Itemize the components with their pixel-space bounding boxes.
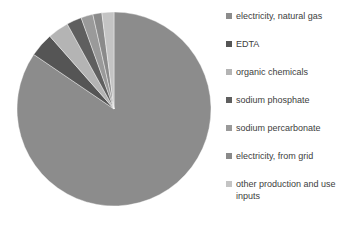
legend-swatch <box>226 97 232 103</box>
legend-swatch <box>226 69 232 75</box>
legend-label: other production and use inputs <box>236 178 336 202</box>
legend-swatch <box>226 13 232 19</box>
legend-item-sodium-percarbonate: sodium percarbonate <box>226 122 336 134</box>
legend-item-sodium-phosphate: sodium phosphate <box>226 94 336 106</box>
legend-label: sodium percarbonate <box>236 122 336 134</box>
pie-chart <box>0 0 230 227</box>
legend-swatch <box>226 125 232 131</box>
legend-item-electricity-natural-gas: electricity, natural gas <box>226 10 336 22</box>
legend-label: electricity, natural gas <box>236 10 336 22</box>
legend-swatch <box>226 153 232 159</box>
legend-label: electricity, from grid <box>236 150 336 162</box>
legend-label: organic chemicals <box>236 66 336 78</box>
legend-label: sodium phosphate <box>236 94 336 106</box>
legend-swatch <box>226 41 232 47</box>
legend-item-electricity-from-grid: electricity, from grid <box>226 150 336 162</box>
legend-swatch <box>226 181 232 187</box>
legend-item-other-inputs: other production and use inputs <box>226 178 336 202</box>
legend-item-organic-chemicals: organic chemicals <box>226 66 336 78</box>
legend-label: EDTA <box>236 38 336 50</box>
legend-item-edta: EDTA <box>226 38 336 50</box>
